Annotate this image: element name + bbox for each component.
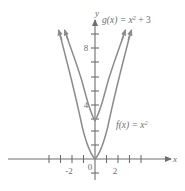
coordinate-plane: -2 2 x 4 8 y 0 (0, 0, 185, 191)
curve-f-arrow-right (128, 30, 131, 40)
f-label-exponent: 2 (145, 119, 149, 126)
g-function-label: g(x) = x2 + 3 (102, 14, 151, 27)
curve-g-arrow-left (65, 30, 68, 40)
x-axis-label: x (172, 154, 177, 164)
y-axis-label: y (94, 8, 99, 18)
graph-figure: -2 2 x 4 8 y 0 (0, 0, 185, 191)
f-label-main: f(x) = x (116, 120, 145, 131)
origin-label: 0 (88, 162, 93, 172)
curve-g-arrow-right (122, 30, 125, 40)
g-label-main: g(x) = x (102, 15, 133, 26)
y-tick-label-8: 8 (84, 43, 89, 53)
x-tick-label-2: 2 (113, 166, 118, 176)
x-tick-label-neg2: -2 (65, 166, 73, 176)
curve-f-arrow-left (59, 30, 62, 40)
f-function-label: f(x) = x2 (116, 119, 149, 132)
g-label-tail: + 3 (136, 15, 151, 25)
